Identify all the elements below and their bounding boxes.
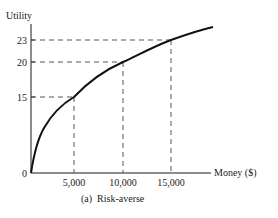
x-tick-label-15000: 15,000 (157, 177, 185, 188)
y-tick-label-0: 0 (22, 168, 27, 179)
y-tick-label-23: 23 (17, 35, 27, 46)
y-tick-label-20: 20 (17, 57, 27, 68)
x-tick-label-10000: 10,000 (109, 177, 137, 188)
y-tick-label-15: 15 (17, 92, 27, 103)
y-axis-label: Utility (6, 10, 32, 21)
utility-chart: Utility 23 20 15 0 5,000 10,000 15,000 M… (0, 0, 278, 218)
utility-curve (31, 27, 213, 173)
chart-caption: (a) Risk-averse (81, 193, 145, 205)
x-axis-label: Money ($) (214, 167, 257, 179)
guide-lines (31, 40, 171, 173)
x-tick-label-5000: 5,000 (63, 177, 86, 188)
